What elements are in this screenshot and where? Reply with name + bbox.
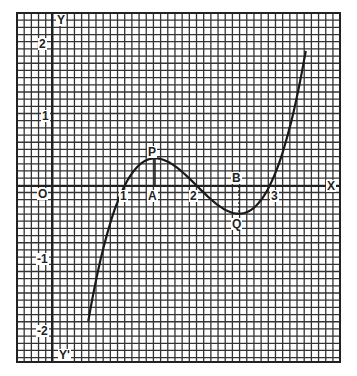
point-p-label: P bbox=[147, 146, 157, 158]
x-axis-label: X bbox=[326, 180, 336, 192]
point-q-label: Q bbox=[231, 218, 242, 230]
plot-border bbox=[17, 13, 340, 362]
point-a-label: A bbox=[147, 190, 158, 202]
point-b-label: B bbox=[231, 172, 242, 184]
y-tick-neg1: -1 bbox=[36, 253, 49, 265]
origin-label: O bbox=[37, 188, 48, 200]
x-tick-1: 1 bbox=[119, 190, 128, 202]
y-axis-label: Y bbox=[56, 14, 66, 26]
x-tick-3: 3 bbox=[270, 190, 279, 202]
cubic-graph bbox=[0, 0, 357, 376]
y-tick-neg2: -2 bbox=[36, 325, 49, 337]
y-neg-axis-label: Y' bbox=[58, 349, 71, 361]
x-tick-2: 2 bbox=[189, 190, 198, 202]
y-tick-1: 1 bbox=[41, 110, 50, 122]
y-tick-2: 2 bbox=[38, 38, 47, 50]
graph-paper-grid bbox=[17, 13, 340, 362]
